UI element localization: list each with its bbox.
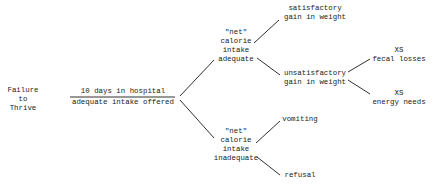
satisfactory-line-2: gain in weight [278,13,352,22]
stage-bottom-text: adequate intake offered [70,98,176,107]
root-line-1: Failure [6,86,40,95]
fecal-line-1: XS [366,46,432,55]
inadequate-line-2: calorie [210,136,262,145]
node-xs-energy-needs: XS energy needs [366,89,432,107]
unsatisfactory-line-1: unsatisfactory [278,69,352,78]
refusal-text: refusal [280,171,320,180]
stage-hospital: 10 days in hospital adequate intake offe… [70,87,176,107]
root-failure-to-thrive: Failure to Thrive [6,86,40,113]
node-vomiting: vomiting [280,115,320,124]
adequate-line-4: adequate [214,55,258,64]
satisfactory-line-1: satisfactory [278,4,352,13]
energy-line-2: energy needs [366,98,432,107]
failure-to-thrive-decision-tree: Failure to Thrive 10 days in hospital ad… [0,0,434,185]
vomiting-text: vomiting [280,115,320,124]
stage-top-text: 10 days in hospital [70,87,176,96]
inadequate-line-4: inadequate [210,154,262,163]
node-satisfactory-gain: satisfactory gain in weight [278,4,352,22]
root-line-3: Thrive [6,104,40,113]
edge-adequate-unsatisfactory [257,58,280,75]
inadequate-line-1: "net" [210,127,262,136]
edge-stage-adequate [180,60,214,96]
node-intake-adequate: "net" calorie intake adequate [214,28,258,64]
unsatisfactory-line-2: gain in weight [278,78,352,87]
root-line-2: to [6,95,40,104]
edge-stage-inadequate [180,100,214,138]
node-intake-inadequate: "net" calorie intake inadequate [210,127,262,163]
inadequate-line-3: intake [210,145,262,154]
adequate-line-1: "net" [214,28,258,37]
node-unsatisfactory-gain: unsatisfactory gain in weight [278,69,352,87]
fecal-line-2: fecal losses [366,55,432,64]
node-xs-fecal-losses: XS fecal losses [366,46,432,64]
adequate-line-2: calorie [214,37,258,46]
node-refusal: refusal [280,171,320,180]
adequate-line-3: intake [214,46,258,55]
energy-line-1: XS [366,89,432,98]
